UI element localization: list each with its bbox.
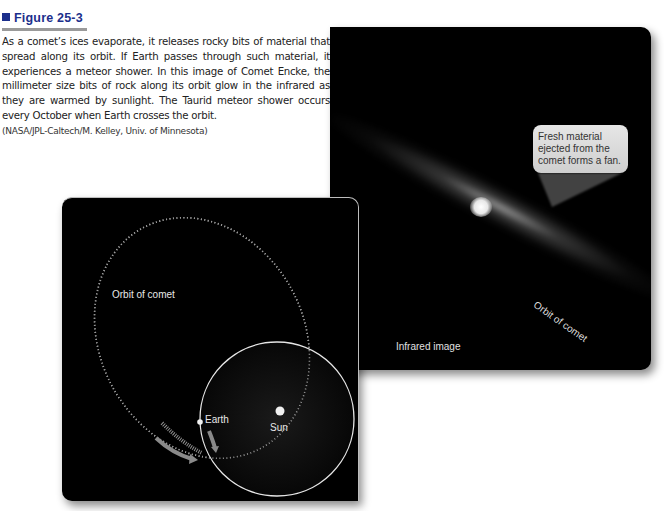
figure-heading: Figure 25-3 [2, 11, 83, 25]
ir-orbit-label: Orbit of comet [532, 299, 590, 344]
comet-nucleus [470, 197, 492, 217]
sun-dot [276, 407, 285, 416]
orbit-of-comet-label: Orbit of comet [112, 289, 175, 300]
callout-pointer [538, 173, 622, 207]
figure-caption: As a comet’s ices evaporate, it releases… [2, 35, 330, 139]
earth-label: Earth [205, 414, 229, 425]
image-credit: (NASA/JPL-Caltech/M. Kelley, Univ. of Mi… [2, 124, 330, 139]
orbit-diagram-panel: Orbit of comet Earth Sun [62, 197, 359, 501]
heading-square-icon [2, 13, 10, 21]
earth-dot [197, 419, 203, 425]
orbit-diagram-graphic [62, 198, 358, 501]
comet-direction-arrow [156, 438, 192, 459]
heading-rule [2, 28, 87, 31]
sun-label: Sun [270, 422, 288, 433]
infrared-image-label: Infrared image [396, 341, 460, 352]
fresh-material-callout: Fresh material ejected from the comet fo… [533, 125, 628, 173]
infrared-image-panel: Fresh material ejected from the comet fo… [330, 27, 651, 370]
caption-text: As a comet’s ices evaporate, it releases… [2, 36, 330, 121]
figure-number: Figure 25-3 [14, 11, 83, 25]
